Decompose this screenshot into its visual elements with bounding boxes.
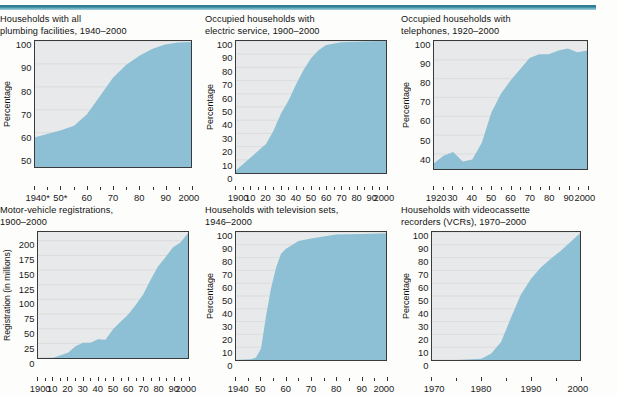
x-tick-label: 90 <box>160 192 170 203</box>
x-axis-ticks: 1940*50*607080902000 <box>34 190 192 204</box>
area-series <box>38 232 188 358</box>
x-tick-label: 2000 <box>567 383 588 394</box>
chart-panel-motor-vehicle-registrations: Motor-vehicle registrations, 1900–2000 R… <box>0 205 205 387</box>
x-tickmarks <box>34 185 192 190</box>
chart-title: Households with videocassette recorders … <box>401 205 530 228</box>
x-tickmarks <box>235 185 387 190</box>
x-tick-label: 50* <box>53 192 67 203</box>
x-axis-ticks: 1920304050607080902000 <box>433 190 588 204</box>
x-tick-label: 2000 <box>373 192 394 203</box>
x-tick-label: 2000 <box>574 192 595 203</box>
x-tick-label: 2000 <box>373 383 394 394</box>
x-tick-label: 80 <box>331 383 341 394</box>
x-tick-label: 50 <box>108 383 118 394</box>
y-axis-ticks: 1009080706050403020100 <box>215 231 235 361</box>
x-tick-label: 40 <box>93 383 103 394</box>
x-tick-label: 1940 <box>228 383 249 394</box>
y-axis-ticks: 1009080706050403020100 <box>411 231 431 361</box>
y-axis-label: Percentage <box>401 40 411 170</box>
y-axis-ticks: 1009080706050403020100 <box>215 40 235 174</box>
x-tick-label: 60 <box>123 383 133 394</box>
x-tick-label: 60 <box>321 192 331 203</box>
x-tick-label: 40 <box>291 192 301 203</box>
x-tick-label: 1990 <box>521 383 542 394</box>
x-tickmarks <box>431 376 581 381</box>
chart-panel-telephones: Occupied households with telephones, 192… <box>401 14 617 205</box>
area-series <box>35 41 191 167</box>
plot-area <box>235 40 387 174</box>
y-axis-ticks: 2001751501251007550250 <box>12 231 37 359</box>
area-series <box>434 41 587 169</box>
x-tick-label: 80 <box>544 192 554 203</box>
chart-panel-vcr: Households with videocassette recorders … <box>401 205 617 387</box>
y-axis-label: Percentage <box>2 40 12 168</box>
x-tick-label: 40 <box>467 192 477 203</box>
x-tick-label: 1970 <box>424 383 445 394</box>
x-tick-label: 10 <box>245 192 255 203</box>
chart-vcr: Percentage 1009080706050403020100 197019… <box>401 231 606 381</box>
area-series <box>432 232 580 360</box>
x-axis-ticks: 19001020304050607080902000 <box>37 381 189 395</box>
plot-area <box>235 231 387 361</box>
chart-electric-service: Percentage 1009080706050403020100 190010… <box>205 40 401 190</box>
y-axis-label: Registration (in millions) <box>2 231 12 359</box>
area-series <box>236 232 386 360</box>
x-tick-label: 1940* <box>25 192 50 203</box>
y-axis-label: Percentage <box>401 231 411 361</box>
x-tick-label: 90 <box>563 192 573 203</box>
chart-panel-plumbing: Households with all plumbing facilities,… <box>0 14 205 205</box>
x-tickmarks <box>433 185 588 190</box>
y-axis-label: Percentage <box>205 231 215 361</box>
x-tick-label: 80 <box>134 192 144 203</box>
chart-panel-electric-service: Occupied households with electric servic… <box>205 14 401 205</box>
chart-television-sets: Percentage 1009080706050403020100 194050… <box>205 231 401 381</box>
x-tick-label: 1920 <box>426 192 447 203</box>
chart-motor-vehicle-registrations: Registration (in millions) 2001751501251… <box>2 231 202 381</box>
x-tick-label: 30 <box>275 192 285 203</box>
x-tick-label: 50 <box>255 383 265 394</box>
x-axis-ticks: 19001020304050607080902000 <box>235 190 387 204</box>
x-tick-label: 70 <box>306 383 316 394</box>
x-tick-label: 60 <box>81 192 91 203</box>
x-tick-label: 2000 <box>178 192 199 203</box>
decorative-top-rule <box>0 5 596 10</box>
x-tick-label: 30 <box>447 192 457 203</box>
plot-area <box>433 40 588 170</box>
plot-area <box>37 231 189 359</box>
chart-title: Households with all plumbing facilities,… <box>0 14 127 37</box>
x-axis-ticks: 1970198019902000 <box>431 381 581 395</box>
x-tick-label: 60 <box>280 383 290 394</box>
x-axis-ticks: 194050607080902000 <box>235 381 387 395</box>
x-tick-label: 80 <box>351 192 361 203</box>
x-tick-label: 20 <box>260 192 270 203</box>
x-tick-label: 50 <box>306 192 316 203</box>
x-tickmarks <box>37 376 189 381</box>
x-tick-label: 80 <box>153 383 163 394</box>
y-axis-ticks: 100908070605040 <box>411 40 433 170</box>
plot-area <box>431 231 581 361</box>
x-tick-label: 90 <box>356 383 366 394</box>
x-tick-label: 30 <box>77 383 87 394</box>
x-tick-label: 1980 <box>471 383 492 394</box>
chart-plumbing: Percentage 1009080706050 1940*50*6070809… <box>2 40 202 190</box>
chart-title: Motor-vehicle registrations, 1900–2000 <box>0 205 113 228</box>
chart-telephones: Percentage 100908070605040 1920304050607… <box>401 40 606 190</box>
x-tick-label: 70 <box>138 383 148 394</box>
x-tick-label: 70 <box>108 192 118 203</box>
x-tickmarks <box>235 376 387 381</box>
x-tick-label: 20 <box>62 383 72 394</box>
x-tick-label: 60 <box>505 192 515 203</box>
x-tick-label: 10 <box>47 383 57 394</box>
chart-grid: Households with all plumbing facilities,… <box>0 14 617 387</box>
chart-title: Occupied households with electric servic… <box>205 14 320 37</box>
chart-panel-television-sets: Households with television sets, 1946–20… <box>205 205 401 387</box>
y-axis-label: Percentage <box>205 40 215 174</box>
y-axis-ticks: 1009080706050 <box>12 40 34 168</box>
x-tick-label: 50 <box>486 192 496 203</box>
chart-title: Occupied households with telephones, 192… <box>401 14 511 37</box>
x-tick-label: 70 <box>525 192 535 203</box>
area-series <box>236 41 386 173</box>
plot-area <box>34 40 192 168</box>
x-tick-label: 70 <box>336 192 346 203</box>
chart-title: Households with television sets, 1946–20… <box>205 205 338 228</box>
